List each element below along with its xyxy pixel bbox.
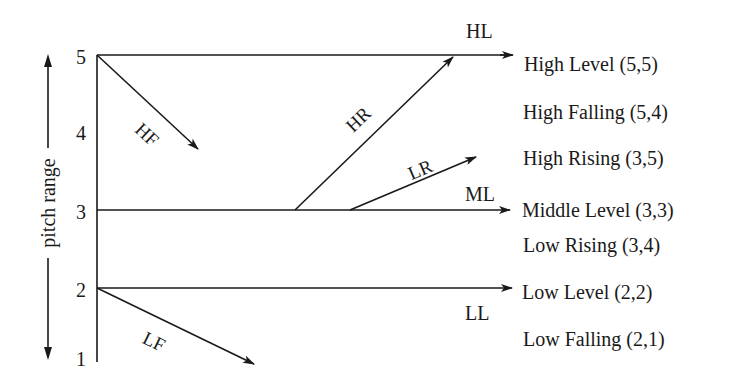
label-ll: LL (465, 303, 489, 323)
legend-high-rising: High Rising (3,5) (523, 148, 664, 168)
lf-line (97, 288, 254, 364)
legend-low-level: Low Level (2,2) (522, 282, 653, 302)
legend-high-falling: High Falling (5,4) (523, 102, 668, 122)
legend-low-falling: Low Falling (2,1) (523, 329, 665, 349)
axis-label: pitch range (38, 153, 58, 253)
legend-middle-level: Middle Level (3,3) (522, 200, 674, 220)
label-hl: HL (466, 21, 493, 41)
legend-high-level: High Level (5,5) (524, 54, 658, 74)
label-ml: ML (465, 184, 495, 204)
tick-3: 3 (76, 202, 86, 222)
tick-5: 5 (76, 47, 86, 67)
legend-low-rising: Low Rising (3,4) (523, 235, 660, 255)
tick-1: 1 (76, 349, 86, 369)
tick-4: 4 (76, 123, 86, 143)
tick-2: 2 (76, 280, 86, 300)
hr-line (295, 57, 453, 210)
